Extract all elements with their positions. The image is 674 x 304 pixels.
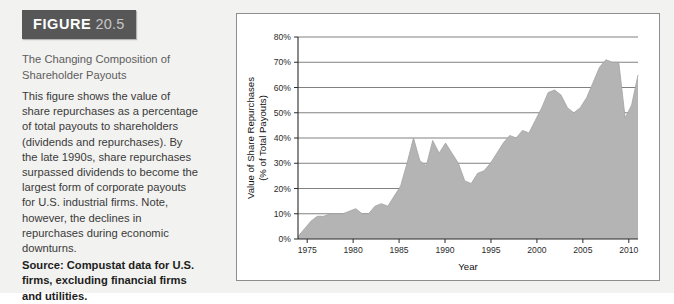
x-tick-label: 1990 bbox=[435, 245, 454, 255]
y-tick-label: 70% bbox=[274, 57, 292, 67]
figure-title: The Changing Composition of Shareholder … bbox=[22, 52, 194, 83]
figure-description: This figure shows the value of share rep… bbox=[22, 89, 200, 256]
x-axis-ticks: 19751980198519901995200020052010 bbox=[298, 239, 639, 255]
y-axis-title-line1: Value of Share Repurchases bbox=[245, 77, 256, 199]
y-tick-label: 60% bbox=[274, 83, 292, 93]
figure-number-badge: FIGURE20.5 bbox=[22, 10, 136, 39]
x-tick-label: 2005 bbox=[573, 245, 592, 255]
chart-panel: 0%10%20%30%40%50%60%70%80% 1975198019851… bbox=[236, 13, 660, 281]
y-tick-label: 20% bbox=[274, 184, 292, 194]
y-tick-label: 10% bbox=[274, 209, 292, 219]
x-tick-label: 1975 bbox=[298, 245, 317, 255]
y-axis-ticks: 0%10%20%30%40%50%60%70%80% bbox=[274, 32, 298, 244]
x-tick-label: 1980 bbox=[344, 245, 363, 255]
y-tick-label: 80% bbox=[274, 32, 292, 42]
figure-badge-number: 20.5 bbox=[95, 16, 124, 32]
area-chart: 0%10%20%30%40%50%60%70%80% 1975198019851… bbox=[237, 14, 659, 280]
y-axis-title: Value of Share Repurchases (% of Total P… bbox=[245, 77, 268, 199]
x-tick-label: 1995 bbox=[481, 245, 500, 255]
y-tick-label: 40% bbox=[274, 133, 292, 143]
x-tick-label: 1985 bbox=[390, 245, 409, 255]
x-tick-label: 2000 bbox=[527, 245, 546, 255]
y-tick-label: 0% bbox=[279, 234, 292, 244]
x-axis-title: Year bbox=[458, 261, 478, 272]
figure-badge-word: FIGURE bbox=[33, 16, 91, 32]
y-tick-label: 50% bbox=[274, 108, 292, 118]
y-tick-label: 30% bbox=[274, 158, 292, 168]
y-axis-title-line2: (% of Total Payouts) bbox=[257, 95, 268, 181]
figure-source-note: Source: Compustat data for U.S. firms, e… bbox=[22, 258, 200, 304]
x-tick-label: 2010 bbox=[619, 245, 638, 255]
figure-caption-column: FIGURE20.5 The Changing Composition of S… bbox=[22, 10, 204, 285]
